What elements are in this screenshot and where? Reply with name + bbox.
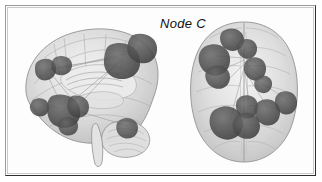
activation-blob bbox=[30, 98, 49, 116]
sagittal-brain-view bbox=[10, 14, 170, 169]
figure-panel: Node C bbox=[0, 0, 322, 182]
sagittal-brain-svg bbox=[10, 14, 170, 169]
axial-brain-view bbox=[180, 14, 308, 169]
axial-brain-svg bbox=[180, 14, 308, 169]
activation-blob bbox=[51, 56, 72, 75]
node-label: Node C bbox=[160, 16, 206, 31]
